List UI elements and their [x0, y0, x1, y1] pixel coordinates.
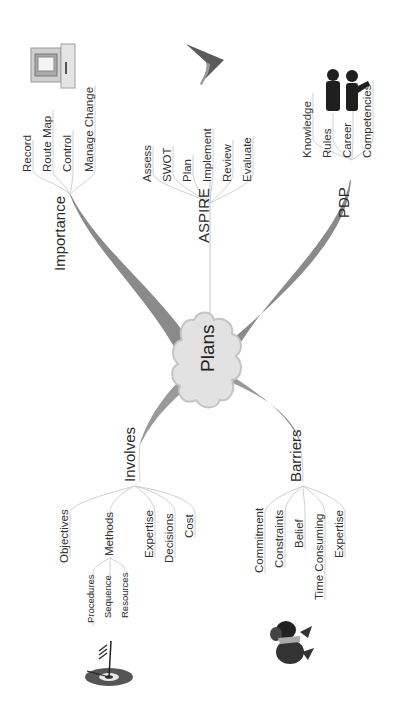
branch-pdp[interactable]: PDP [336, 187, 351, 218]
pdp-child-rules[interactable]: Rules [322, 129, 334, 158]
branch-involves[interactable]: Involves [122, 427, 137, 482]
center-label: Plans [198, 324, 217, 372]
branch-aspire[interactable]: ASPIRE [196, 188, 211, 243]
pdp-child-knowledge[interactable]: Knowledge [302, 101, 314, 158]
target-icon [80, 636, 138, 692]
aspire-child-implement[interactable]: Implement [202, 128, 214, 182]
involves-child-expertise[interactable]: Expertise [144, 510, 156, 558]
aspire-child-evaluate[interactable]: Evaluate [242, 137, 254, 182]
aspire-child-plan[interactable]: Plan [182, 159, 194, 182]
branch-importance[interactable]: Importance [52, 196, 67, 271]
pdp-child-career[interactable]: Career [342, 123, 354, 158]
involves-child-cost[interactable]: Cost [184, 514, 196, 538]
importance-child-record[interactable]: Record [22, 135, 34, 172]
involves-child-decisions[interactable]: Decisions [164, 513, 176, 563]
involves-child-methods[interactable]: Methods [104, 512, 116, 556]
arrowhead-icon [180, 38, 232, 90]
barriers-child-time-consuming[interactable]: Time Consuming [314, 514, 326, 601]
methods-child-sequence[interactable]: Sequence [103, 575, 113, 618]
importance-child-route-map[interactable]: Route Map [42, 116, 54, 172]
branch-barriers[interactable]: Barriers [288, 429, 303, 482]
barriers-child-expertise[interactable]: Expertise [334, 510, 346, 558]
barriers-child-constraints[interactable]: Constraints [274, 510, 286, 568]
aspire-child-assess[interactable]: Assess [142, 145, 154, 182]
computer-icon [26, 41, 80, 93]
struggle-figure-icon [262, 614, 318, 666]
barriers-child-belief[interactable]: Belief [294, 519, 306, 548]
aspire-child-review[interactable]: Review [222, 144, 234, 182]
importance-child-manage-change[interactable]: Manage Change [84, 87, 96, 172]
mind-map-canvas: Plans Importance ASPIRE PDP Involves Bar… [0, 0, 406, 718]
methods-child-procedures[interactable]: Procedures [86, 574, 96, 623]
barriers-child-commitment[interactable]: Commitment [254, 508, 266, 573]
people-icon [316, 59, 372, 115]
methods-child-resources[interactable]: Resources [120, 573, 130, 618]
aspire-child-swot[interactable]: SWOT [162, 148, 174, 183]
involves-child-objectives[interactable]: Objectives [59, 509, 71, 563]
importance-child-control[interactable]: Control [62, 135, 74, 172]
